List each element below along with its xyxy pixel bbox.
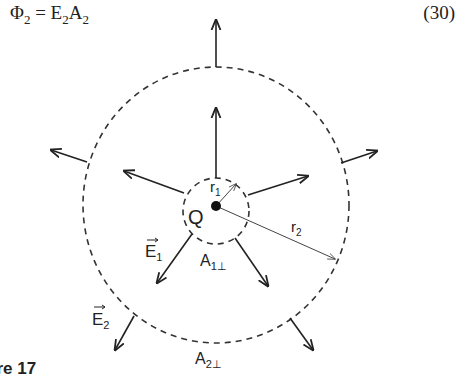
e2-label: E2 bbox=[92, 305, 109, 331]
charge-dot bbox=[211, 201, 221, 211]
figure-caption: ure 17 bbox=[0, 359, 36, 376]
e1-label: E1 bbox=[145, 238, 162, 263]
gauss-law-diagram: Q r1 r2 E1 E2 A1⊥ A2⊥ bbox=[0, 0, 469, 376]
r2-radius-line bbox=[216, 206, 335, 259]
r1-label: r1 bbox=[210, 178, 221, 198]
a1-label: A1⊥ bbox=[200, 252, 227, 272]
r2-label: r2 bbox=[291, 218, 302, 238]
svg-text:E1: E1 bbox=[145, 242, 162, 263]
charge-label: Q bbox=[188, 206, 204, 228]
svg-text:E2: E2 bbox=[92, 310, 109, 331]
a2-label: A2⊥ bbox=[195, 350, 222, 370]
